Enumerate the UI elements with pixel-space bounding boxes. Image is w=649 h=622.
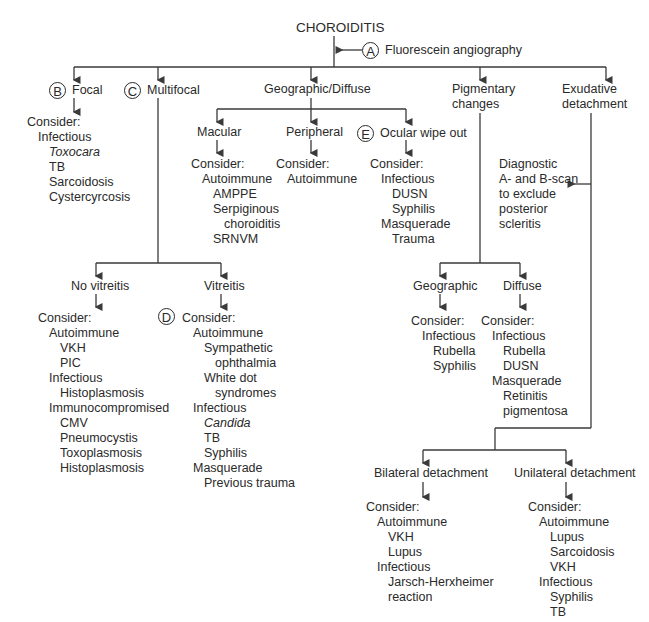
peripheral-list: Consider: Autoimmune (276, 157, 357, 187)
ocular-list: Consider: Infectious DUSN Syphilis Masqu… (370, 157, 451, 247)
scan-note: Diagnostic A- and B-scan to exclude post… (499, 157, 578, 232)
focal-list: Consider: Infectious Toxocara TB Sarcoid… (27, 115, 130, 205)
letter-b-icon: B (49, 82, 66, 99)
macular-list: Consider: Autoimmune AMPPE Serpiginous c… (191, 157, 280, 247)
vitreitis-list: Consider: Autoimmune Sympathetic ophthal… (182, 311, 295, 491)
root-title: CHOROIDITIS (296, 20, 385, 35)
node-focal: BFocal (49, 82, 103, 99)
node-vitreitis: Vitreitis (204, 279, 245, 294)
node-ocular-wipe-out: EOcular wipe out (357, 125, 467, 142)
letter-a-icon: A (362, 42, 379, 59)
node-unilateral: Unilateral detachment (514, 466, 636, 481)
letter-e-icon: E (357, 125, 374, 142)
node-macular: Macular (197, 125, 241, 140)
node-pig-diffuse: Diffuse (503, 279, 542, 294)
node-no-vitreitis: No vitreitis (71, 279, 129, 294)
node-geographic-diffuse: Geographic/Diffuse (264, 82, 371, 97)
annotation-d: D (158, 308, 181, 325)
annotation-a: AFluorescein angiography (362, 42, 522, 59)
bilateral-list: Consider: Autoimmune VKH Lupus Infectiou… (366, 500, 494, 605)
node-bilateral: Bilateral detachment (374, 466, 488, 481)
node-peripheral: Peripheral (286, 125, 343, 140)
unilateral-list: Consider: Autoimmune Lupus Sarcoidosis V… (528, 500, 615, 620)
letter-c-icon: C (124, 82, 141, 99)
pig-geographic-list: Consider: Infectious Rubella Syphilis (411, 314, 476, 374)
fluorescein-label: Fluorescein angiography (385, 43, 522, 57)
node-multifocal: CMultifocal (124, 82, 200, 99)
node-pigmentary: Pigmentarychanges (452, 82, 515, 112)
pig-diffuse-list: Consider: Infectious Rubella DUSN Masque… (481, 314, 568, 419)
letter-d-icon: D (158, 308, 175, 325)
no-vitreitis-list: Consider: Autoimmune VKH PIC Infectious … (38, 311, 169, 476)
node-pig-geographic: Geographic (413, 279, 478, 294)
node-exudative: Exudativedetachment (562, 82, 627, 112)
